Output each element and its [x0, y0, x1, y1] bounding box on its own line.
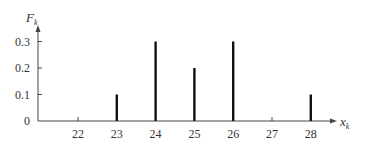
- x-tick-label: 26: [227, 127, 239, 141]
- y-tick-label: 0: [24, 114, 30, 128]
- y-tick-label: 0.1: [15, 88, 30, 102]
- x-tick-label: 23: [111, 127, 123, 141]
- y-axis-title: Fk: [25, 10, 38, 27]
- axes: 00.10.20.322232425262728: [15, 25, 337, 141]
- x-tick-label: 28: [305, 127, 317, 141]
- stems: [117, 42, 311, 122]
- x-axis-title: xk: [339, 114, 350, 131]
- y-tick-label: 0.3: [15, 35, 30, 49]
- x-tick-label: 27: [266, 127, 278, 141]
- y-tick-label: 0.2: [15, 61, 30, 75]
- x-tick-label: 25: [188, 127, 200, 141]
- x-axis-arrow-icon: [330, 119, 337, 124]
- stem-chart: 00.10.20.322232425262728 Fk xk: [0, 0, 368, 144]
- x-tick-label: 24: [150, 127, 162, 141]
- x-tick-label: 22: [72, 127, 84, 141]
